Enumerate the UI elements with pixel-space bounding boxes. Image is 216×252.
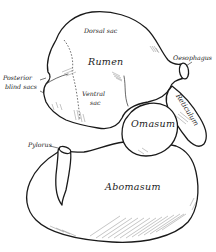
label-rumen: Rumen <box>88 57 124 67</box>
label-abomasum: Abomasum <box>105 182 161 192</box>
label-omasum: Omasum <box>131 119 175 129</box>
label-posterior-blind-sacs-2: blind sacs <box>5 84 37 90</box>
stomach-illustration <box>0 0 216 252</box>
label-pylorus: Pylorus <box>28 142 52 148</box>
label-oesophagus: Oesophagus <box>173 55 212 61</box>
label-ventral-sac-2: sac <box>90 100 101 106</box>
label-posterior-blind-sacs-1: Posterior <box>3 75 32 81</box>
stomach-diagram: Dorsal sac Rumen Oesophagus Posterior bl… <box>0 0 216 252</box>
label-ventral-sac-1: Ventral <box>82 91 105 97</box>
label-dorsal-sac: Dorsal sac <box>84 28 117 34</box>
leader-oesophagus <box>186 62 192 66</box>
